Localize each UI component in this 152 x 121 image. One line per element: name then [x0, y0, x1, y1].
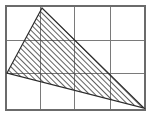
geometry-diagram [0, 0, 152, 121]
figure-container [0, 0, 152, 121]
